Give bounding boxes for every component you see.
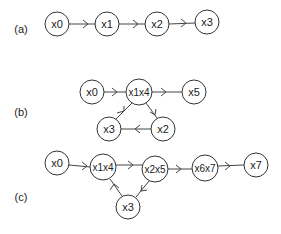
edge-b-x1x4-x5 bbox=[152, 88, 182, 96]
edge-c-x3-x1x4 bbox=[110, 179, 122, 196]
node-a-x0: x0 bbox=[45, 12, 69, 36]
node-c-x3: x3 bbox=[116, 195, 140, 219]
svg-text:x5: x5 bbox=[188, 86, 200, 98]
node-b-x2: x2 bbox=[151, 117, 175, 141]
panel-label-c: (c) bbox=[15, 191, 28, 203]
edge-c-x2x5-x3 bbox=[136, 181, 149, 197]
diagram-canvas: (a) x0 x1 x2 x3 (b) bbox=[0, 0, 281, 234]
panel-a: (a) x0 x1 x2 x3 bbox=[14, 10, 219, 36]
node-c-x2x5: x2x5 bbox=[142, 156, 168, 182]
node-a-x3: x3 bbox=[195, 10, 219, 34]
node-c-x0: x0 bbox=[45, 151, 69, 175]
edge-c-x1x4-x2x5 bbox=[116, 161, 142, 169]
node-c-x7: x7 bbox=[244, 153, 268, 177]
svg-text:x6x7: x6x7 bbox=[194, 163, 216, 174]
svg-text:x2: x2 bbox=[151, 18, 163, 30]
edge-c-x0-x1x4 bbox=[69, 162, 90, 170]
edge-b-x2-x3 bbox=[121, 125, 151, 133]
panel-label-b: (b) bbox=[14, 106, 27, 118]
svg-text:x0: x0 bbox=[51, 18, 63, 30]
svg-text:x0: x0 bbox=[51, 157, 63, 169]
edge-b-x3-x1x4 bbox=[116, 103, 132, 119]
svg-text:x7: x7 bbox=[250, 159, 262, 171]
svg-text:x2x5: x2x5 bbox=[144, 164, 166, 175]
svg-text:x3: x3 bbox=[201, 16, 213, 28]
panel-b: (b) x0 x1x4 x5 bbox=[14, 79, 206, 141]
svg-text:x1: x1 bbox=[101, 18, 113, 30]
svg-text:x0: x0 bbox=[86, 86, 98, 98]
svg-text:x3: x3 bbox=[122, 201, 134, 213]
edge-c-x6x7-x7 bbox=[218, 162, 244, 170]
node-b-x1x4: x1x4 bbox=[126, 79, 152, 105]
svg-text:x3: x3 bbox=[103, 123, 115, 135]
node-b-x3: x3 bbox=[97, 117, 121, 141]
edge-a-x0-x1 bbox=[69, 20, 95, 28]
edge-c-x2x5-x6x7 bbox=[168, 165, 192, 173]
graph-svg: (a) x0 x1 x2 x3 (b) bbox=[0, 0, 281, 234]
edge-b-x0-x1x4 bbox=[104, 88, 126, 96]
node-c-x1x4: x1x4 bbox=[90, 154, 116, 180]
node-b-x5: x5 bbox=[182, 80, 206, 104]
edge-a-x1-x2 bbox=[119, 20, 145, 28]
edge-b-x1x4-x2 bbox=[146, 103, 157, 118]
panel-c: (c) x0 x1x4 bbox=[15, 151, 268, 219]
svg-text:x1x4: x1x4 bbox=[128, 87, 150, 98]
node-b-x0: x0 bbox=[80, 80, 104, 104]
node-c-x6x7: x6x7 bbox=[192, 155, 218, 181]
panel-label-a: (a) bbox=[14, 23, 27, 35]
svg-text:x2: x2 bbox=[157, 123, 169, 135]
node-a-x1: x1 bbox=[95, 12, 119, 36]
edge-a-x2-x3 bbox=[169, 19, 195, 27]
svg-text:x1x4: x1x4 bbox=[92, 162, 114, 173]
node-a-x2: x2 bbox=[145, 12, 169, 36]
